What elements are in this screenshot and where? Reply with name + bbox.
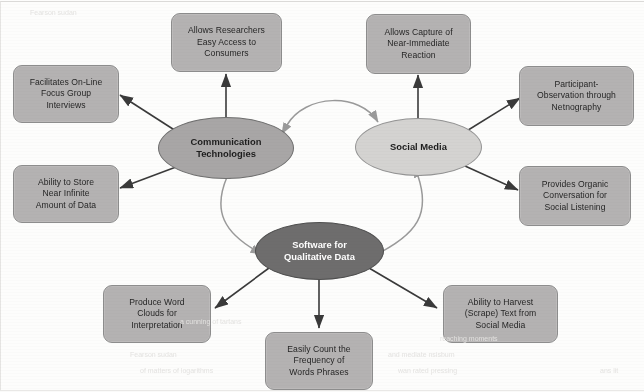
text-line: Conversation for (538, 190, 613, 202)
concept-box-allows-researchers-easy-access[interactable]: Allows Researchers Easy Access to Consum… (171, 13, 282, 72)
connector-software-to-harvest (369, 268, 437, 308)
text-line: Participant- (533, 79, 620, 91)
concept-box-text: Participant- Observation through Netnogr… (529, 79, 624, 114)
text-line: Produce Word (125, 297, 188, 309)
text-line: Ability to Store (32, 177, 100, 189)
concept-box-easily-count-frequency-words-phrases[interactable]: Easily Count the Frequency of Words Phra… (265, 332, 373, 390)
text-line: Technologies (191, 148, 262, 160)
connector-comm-to-software (221, 177, 262, 254)
text-line: Qualitative Data (284, 251, 355, 263)
concept-box-text: Allows Capture of Near-Immediate Reactio… (376, 27, 460, 62)
concept-box-produce-word-clouds-interpretation[interactable]: Produce Word Clouds for Interpretation (103, 285, 211, 343)
text-line: Social Media (390, 141, 447, 153)
text-line: Interpretation (125, 320, 188, 332)
diagram-canvas: Allows Researchers Easy Access to Consum… (0, 0, 644, 392)
text-line: Software for (284, 239, 355, 251)
text-line: Consumers (184, 48, 269, 60)
text-line: Frequency of (283, 355, 354, 367)
hub-label: Communication Technologies (191, 136, 262, 161)
text-line: Communication (191, 136, 262, 148)
text-line: Focus Group (26, 88, 107, 100)
text-line: Near-Immediate (380, 38, 456, 50)
connector-software-to-wordclouds (215, 268, 269, 308)
text-line: Social Listening (538, 202, 613, 214)
connector-comm-to-store (120, 167, 176, 188)
concept-box-allows-capture-near-immediate-reaction[interactable]: Allows Capture of Near-Immediate Reactio… (366, 14, 471, 74)
concept-box-provides-organic-conversation-social-listening[interactable]: Provides Organic Conversation for Social… (519, 166, 631, 226)
text-line: (Scrape) Text from (461, 308, 540, 320)
text-line: Facilitates On-Line (26, 77, 107, 89)
concept-box-text: Ability to Harvest (Scrape) Text from So… (457, 297, 544, 332)
text-line: Interviews (26, 100, 107, 112)
concept-box-text: Provides Organic Conversation for Social… (534, 179, 617, 214)
text-line: Allows Capture of (380, 27, 456, 39)
connector-comm-to-social (287, 101, 378, 125)
hub-label: Social Media (390, 141, 447, 153)
connector-social-to-organic (465, 166, 518, 190)
text-line: Easily Count the (283, 344, 354, 356)
text-line: Amount of Data (32, 200, 100, 212)
text-line: Allows Researchers (184, 25, 269, 37)
text-line: Easy Access to (184, 37, 269, 49)
text-line: Clouds for (125, 308, 188, 320)
hub-software-for-qualitative-data[interactable]: Software for Qualitative Data (255, 222, 384, 280)
text-line: Reaction (380, 50, 456, 62)
concept-box-text: Produce Word Clouds for Interpretation (121, 297, 192, 332)
hub-label: Software for Qualitative Data (284, 239, 355, 264)
concept-box-text: Facilitates On-Line Focus Group Intervie… (22, 77, 111, 112)
text-line: Provides Organic (538, 179, 613, 191)
connector-social-to-netnography (465, 98, 520, 132)
text-line: Words Phrases (283, 367, 354, 379)
text-line: Ability to Harvest (461, 297, 540, 309)
text-line: Near Infinite (32, 188, 100, 200)
hub-social-media[interactable]: Social Media (355, 118, 482, 176)
hub-communication-technologies[interactable]: Communication Technologies (158, 117, 294, 179)
text-line: Observation through (533, 90, 620, 102)
concept-box-ability-to-store-near-infinite-data[interactable]: Ability to Store Near Infinite Amount of… (13, 165, 119, 223)
concept-box-text: Ability to Store Near Infinite Amount of… (28, 177, 104, 212)
concept-box-ability-to-harvest-scrape-text[interactable]: Ability to Harvest (Scrape) Text from So… (443, 285, 558, 343)
concept-box-text: Easily Count the Frequency of Words Phra… (279, 344, 358, 379)
concept-box-facilitates-online-focus-group-interviews[interactable]: Facilitates On-Line Focus Group Intervie… (13, 65, 119, 123)
text-line: Netnography (533, 102, 620, 114)
concept-box-text: Allows Researchers Easy Access to Consum… (180, 25, 273, 60)
concept-box-participant-observation-netnography[interactable]: Participant- Observation through Netnogr… (519, 66, 634, 126)
connector-comm-to-focusgroup (120, 95, 176, 131)
text-line: Social Media (461, 320, 540, 332)
